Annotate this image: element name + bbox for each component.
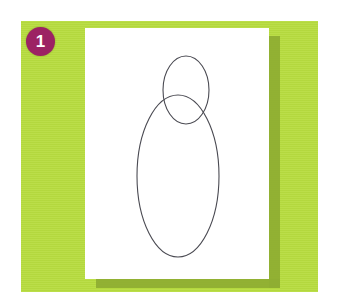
large-ellipse-body [137,95,219,257]
screenshot-root: 1 [0,0,339,307]
drawing-paper [85,28,269,279]
sketch-canvas [85,28,269,279]
small-ellipse-head [163,56,209,124]
step-number-badge: 1 [26,27,55,56]
paper-shadow-right [269,36,280,288]
paper-shadow-bottom [96,279,280,288]
step-number-label: 1 [36,33,45,50]
